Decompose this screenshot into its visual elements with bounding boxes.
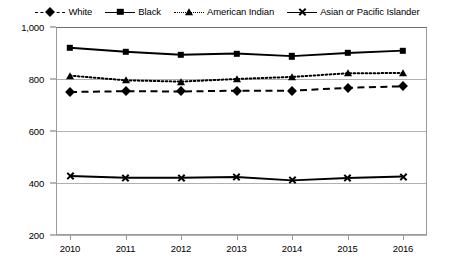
x-marker-icon (399, 172, 408, 181)
square-marker-icon (344, 50, 350, 56)
triangle-marker-icon (288, 73, 296, 80)
square-marker-icon (67, 45, 73, 51)
x-marker-icon (66, 171, 75, 180)
square-marker-icon (289, 53, 295, 59)
x-marker-icon (343, 174, 352, 183)
triangle-marker-icon (177, 78, 185, 85)
diamond-marker-icon (121, 86, 131, 96)
series-markers (0, 0, 455, 261)
square-marker-icon (178, 52, 184, 58)
square-marker-icon (122, 48, 128, 54)
series-layer (0, 0, 455, 261)
square-marker-icon (233, 50, 239, 56)
triangle-marker-icon (399, 69, 407, 76)
line-chart: WhiteBlackAmerican IndianAsian or Pacifi… (0, 0, 455, 261)
triangle-marker-icon (344, 69, 352, 76)
x-marker-icon (232, 173, 241, 182)
diamond-marker-icon (343, 83, 353, 93)
triangle-marker-icon (122, 76, 130, 83)
triangle-marker-icon (66, 72, 74, 79)
diamond-marker-icon (232, 86, 242, 96)
square-marker-icon (400, 47, 406, 53)
x-marker-icon (121, 173, 130, 182)
diamond-marker-icon (287, 86, 297, 96)
diamond-marker-icon (65, 87, 75, 97)
x-marker-icon (288, 176, 297, 185)
x-marker-icon (177, 173, 186, 182)
triangle-marker-icon (233, 75, 241, 82)
diamond-marker-icon (176, 87, 186, 97)
diamond-marker-icon (398, 81, 408, 91)
